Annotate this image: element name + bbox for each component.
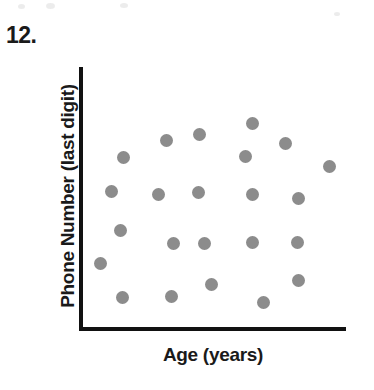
data-point [160, 134, 173, 147]
data-point [246, 236, 259, 249]
data-point [323, 160, 336, 173]
plot-area: Phone Number (last digit) Age (years) [0, 0, 374, 390]
data-point [94, 257, 107, 270]
data-point [116, 291, 129, 304]
y-axis-label: Phone Number (last digit) [57, 71, 79, 321]
data-point [192, 186, 205, 199]
data-point [292, 274, 305, 287]
x-axis-line [79, 327, 346, 331]
data-point [257, 296, 270, 309]
data-point [279, 137, 292, 150]
data-point [167, 237, 180, 250]
data-point [117, 151, 130, 164]
data-point [239, 150, 252, 163]
scatter-plot-figure: 12. Phone Number (last digit) Age (years… [0, 0, 374, 390]
data-point [205, 278, 218, 291]
data-point [246, 188, 259, 201]
data-point [193, 128, 206, 141]
data-point [152, 188, 165, 201]
data-point [292, 192, 305, 205]
data-point [198, 237, 211, 250]
data-point [114, 224, 127, 237]
data-point [291, 236, 304, 249]
y-axis-line [79, 67, 83, 331]
data-point [246, 117, 259, 130]
data-point [165, 290, 178, 303]
data-point [105, 185, 118, 198]
x-axis-label: Age (years) [80, 344, 346, 366]
